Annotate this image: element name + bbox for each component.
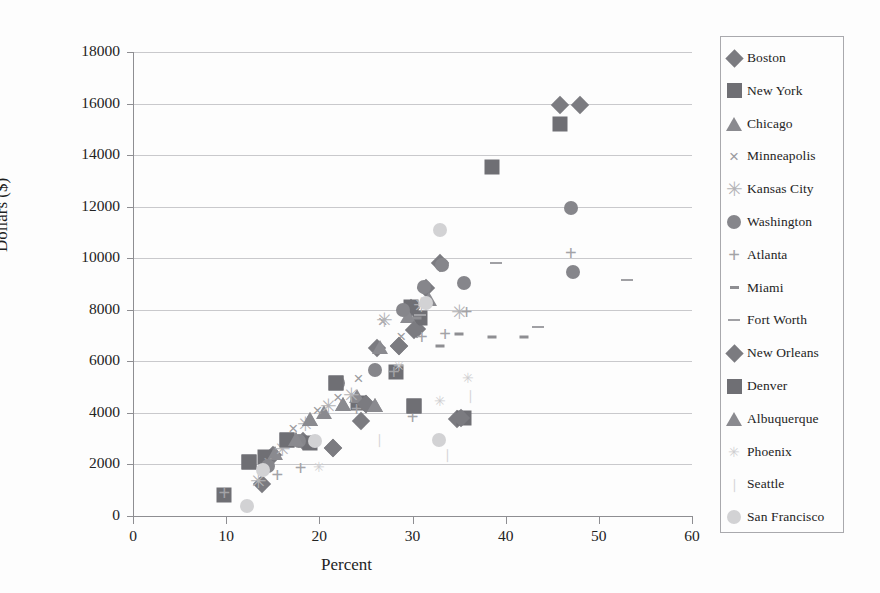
legend-item-kansas-city[interactable]: ✳Kansas City (721, 172, 843, 206)
legend-item-label: Fort Worth (747, 312, 807, 328)
marker-dash-long-icon (414, 314, 426, 316)
legend-marker-swatch: × (721, 139, 747, 173)
legend-item-label: Boston (747, 50, 786, 66)
data-point (566, 265, 580, 279)
legend-marker-swatch (721, 74, 747, 108)
legend-item-minneapolis[interactable]: ×Minneapolis (721, 139, 843, 173)
legend-item-label: San Francisco (747, 509, 824, 525)
x-axis-tick (413, 517, 414, 524)
data-point: ✳ (313, 460, 325, 474)
legend-item-washington[interactable]: Washington (721, 205, 843, 239)
marker-triangle-icon (335, 397, 351, 411)
data-point: + (272, 465, 284, 485)
marker-square-icon (484, 159, 499, 174)
legend-item-denver[interactable]: Denver (721, 369, 843, 403)
data-point: ❘ (465, 388, 476, 401)
marker-plus-icon: + (728, 245, 740, 265)
data-point: ❘ (374, 432, 385, 445)
legend-item-label: Washington (747, 214, 812, 230)
data-point (436, 344, 445, 347)
marker-square-icon (407, 398, 422, 413)
legend-item-label: Chicago (747, 116, 793, 132)
marker-dash-icon (730, 286, 739, 289)
data-point: ✳ (462, 371, 474, 385)
x-axis-tick-label: 30 (383, 527, 443, 545)
x-axis-tick (599, 517, 600, 524)
marker-square-icon (727, 379, 742, 394)
legend-item-miami[interactable]: Miami (721, 271, 843, 305)
data-point (520, 335, 529, 338)
gridline (133, 104, 692, 105)
legend-item-chicago[interactable]: Chicago (721, 107, 843, 141)
y-axis-tick-label: 16000 (40, 94, 120, 112)
marker-star-icon: ✳ (726, 179, 743, 199)
marker-circle-light-icon (308, 434, 322, 448)
legend-item-san-francisco[interactable]: San Francisco (721, 500, 843, 534)
legend-item-boston[interactable]: Boston (721, 41, 843, 75)
marker-dash-long-icon (490, 262, 502, 264)
legend-item-albuquerque[interactable]: Albuquerque (721, 402, 843, 436)
legend-marker-swatch (721, 500, 747, 534)
gridline (133, 207, 692, 208)
x-axis-tick (226, 517, 227, 524)
marker-diamond-icon (389, 337, 407, 355)
marker-circle-icon (564, 201, 578, 215)
marker-triangle-icon (726, 412, 742, 426)
data-point (419, 296, 433, 310)
y-axis-tick (127, 155, 134, 156)
data-point (256, 463, 270, 477)
y-axis-tick (127, 413, 134, 414)
y-axis-tick (127, 104, 134, 105)
data-point: + (439, 324, 451, 344)
x-axis-tick (692, 517, 693, 524)
legend-item-label: New Orleans (747, 345, 819, 361)
data-point (392, 339, 405, 352)
gridline (133, 361, 692, 362)
legend-item-new-orleans[interactable]: New Orleans (721, 336, 843, 370)
marker-dash-long-icon (532, 326, 544, 328)
data-point (490, 262, 502, 264)
y-axis-tick (127, 464, 134, 465)
x-axis-tick (506, 517, 507, 524)
marker-dash-long-icon (621, 279, 633, 281)
marker-plus-icon: + (218, 483, 230, 503)
marker-circle-light-icon (727, 510, 741, 524)
legend-marker-swatch: ✳ (721, 435, 747, 469)
marker-circle-light-icon (433, 223, 447, 237)
marker-dash-long-icon (728, 319, 740, 321)
marker-square-icon (727, 83, 742, 98)
legend-item-label: Denver (747, 378, 787, 394)
legend-marker-swatch (721, 336, 747, 370)
legend-item-new-york[interactable]: New York (721, 74, 843, 108)
data-point: + (218, 483, 230, 503)
x-axis-tick-label: 20 (289, 527, 349, 545)
legend-item-fort-worth[interactable]: Fort Worth (721, 303, 843, 337)
marker-star-small-icon: ✳ (462, 371, 474, 385)
marker-star-small-icon: ✳ (434, 394, 446, 408)
marker-plus-icon: + (295, 458, 307, 478)
marker-diamond-icon (324, 438, 342, 456)
data-point (454, 412, 467, 425)
marker-circle-icon (396, 303, 410, 317)
data-point (327, 441, 340, 454)
data-point (335, 397, 351, 411)
y-axis-title: Dollars ($) (0, 178, 12, 252)
scatter-chart-figure: 0200040006000800010000120001400016000180… (0, 0, 880, 593)
legend-item-phoenix[interactable]: ✳Phoenix (721, 435, 843, 469)
data-point (242, 454, 257, 469)
marker-plus-icon: + (565, 243, 577, 263)
data-point (433, 223, 447, 237)
data-point (408, 324, 421, 337)
legend-marker-swatch: ❘ (721, 467, 747, 501)
legend-item-label: Kansas City (747, 181, 814, 197)
marker-dot-small-icon: ❘ (442, 448, 453, 461)
data-point (329, 376, 344, 391)
data-point: + (295, 458, 307, 478)
legend-item-seattle[interactable]: ❘Seattle (721, 467, 843, 501)
legend-item-atlanta[interactable]: +Atlanta (721, 238, 843, 272)
marker-dash-icon (487, 335, 496, 338)
marker-diamond-icon (725, 344, 743, 362)
legend-marker-swatch (721, 41, 747, 75)
data-point (487, 335, 496, 338)
legend-marker-swatch: + (721, 238, 747, 272)
